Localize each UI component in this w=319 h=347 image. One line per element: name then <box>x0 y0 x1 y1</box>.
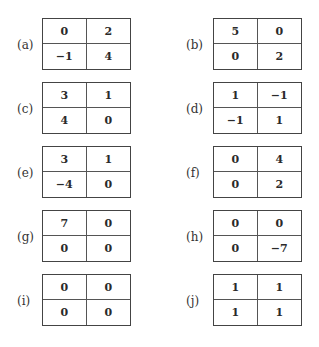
payoff-matrix: 000−7 <box>213 210 302 262</box>
matrix-cell: 4 <box>258 147 302 172</box>
matrix-item: (f)0402 <box>0 146 319 200</box>
matrix-cell: 0 <box>214 172 258 197</box>
matrix-label: (h) <box>186 210 203 264</box>
matrix-item: (h)000−7 <box>0 210 319 264</box>
matrix-cell: −7 <box>258 236 302 261</box>
matrix-item: (j)1111 <box>0 274 319 328</box>
matrix-cell: 2 <box>258 44 302 69</box>
matrix-cell: 5 <box>214 19 258 44</box>
matrix-cell: 2 <box>258 172 302 197</box>
payoff-matrix: 1−1−11 <box>213 82 302 134</box>
matrix-cell: 0 <box>214 147 258 172</box>
matrix-cell: −1 <box>214 108 258 133</box>
matrix-cell: 0 <box>258 19 302 44</box>
matrix-cell: −1 <box>258 83 302 108</box>
matrix-label: (f) <box>186 146 200 200</box>
matrix-cell: 0 <box>214 44 258 69</box>
matrix-cell: 0 <box>214 236 258 261</box>
payoff-matrix: 1111 <box>213 274 302 326</box>
matrix-cell: 1 <box>258 300 302 325</box>
matrix-cell: 1 <box>258 275 302 300</box>
matrix-item: (b)5002 <box>0 18 319 72</box>
matrix-cell: 0 <box>214 211 258 236</box>
matrix-item: (d)1−1−11 <box>0 82 319 136</box>
matrix-cell: 1 <box>214 275 258 300</box>
payoff-matrix: 0402 <box>213 146 302 198</box>
matrix-cell: 1 <box>214 300 258 325</box>
matrix-cell: 0 <box>258 211 302 236</box>
matrix-label: (d) <box>186 82 203 136</box>
matrix-label: (b) <box>186 18 203 72</box>
matrix-cell: 1 <box>258 108 302 133</box>
matrix-label: (j) <box>186 274 199 328</box>
payoff-matrix: 5002 <box>213 18 302 70</box>
matrix-cell: 1 <box>214 83 258 108</box>
